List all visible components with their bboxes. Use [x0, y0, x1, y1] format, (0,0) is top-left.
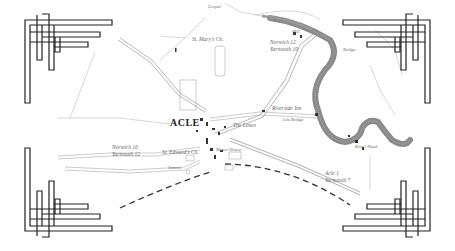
label-acle-1: Acle 1	[325, 171, 339, 177]
label-gospel: Gospel	[208, 5, 221, 10]
label-station: Station	[168, 166, 181, 171]
label-st-marys-church: St. Mary's Ch.	[192, 37, 223, 43]
label-yarmouth-7: Yarmouth 7	[325, 178, 350, 184]
label-the-limes: The Limes	[233, 123, 256, 129]
field-boundaries	[58, 3, 402, 190]
railway	[120, 164, 350, 208]
label-acle-bridge: Acle Bridge	[282, 118, 303, 123]
corner-ornament-top-left	[25, 14, 112, 103]
label-norwich-12: Norwich 12	[270, 40, 296, 46]
label-kings-head: King's Head	[355, 145, 377, 150]
label-st-edwards-church: St. Edward's Ch.	[162, 150, 199, 156]
road-southeast	[230, 138, 360, 195]
town-label-acle: ACLE	[170, 117, 200, 128]
label-norwich-10: Norwich 10	[112, 145, 138, 151]
label-bridge: Bridge	[343, 48, 355, 53]
label-yarmouth-12: Yarmouth 12	[112, 152, 140, 158]
label-manor-house: Manor House	[216, 148, 241, 153]
road-northwest	[118, 38, 207, 112]
road-northeast	[215, 30, 321, 135]
label-mill: Mill	[292, 30, 300, 35]
label-riverside-inn: Riverside Inn	[272, 106, 301, 112]
label-yarmouth-10: Yarmouth 10	[270, 47, 298, 53]
corner-ornament-top-right	[343, 14, 430, 103]
corner-ornament-bottom-right	[343, 148, 430, 237]
map-canvas	[0, 0, 455, 251]
corner-ornament-bottom-left	[25, 148, 112, 237]
